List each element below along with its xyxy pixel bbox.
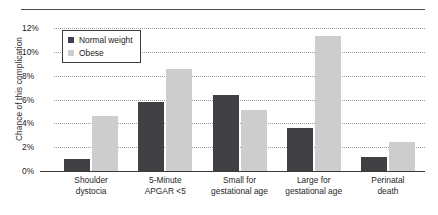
y-axis-tick-label: 12% (22, 23, 52, 33)
y-axis-tick-label: 2% (22, 142, 52, 152)
bar-obese (241, 110, 267, 171)
bar-normal-weight (138, 102, 164, 171)
gridline (54, 76, 425, 77)
legend-label-obese: Obese (79, 48, 104, 58)
category-label-line: Perinatal (343, 175, 433, 186)
x-axis-category-labels: Shoulderdystocia5-MinuteAPGAR <5Small fo… (54, 175, 425, 209)
top-divider-rule (21, 9, 425, 10)
legend-label-normal-weight: Normal weight (79, 35, 133, 45)
y-axis-tick-labels: 0%2%4%6%8%10%12% (22, 28, 52, 171)
bar-normal-weight (64, 159, 90, 171)
gridline (54, 28, 425, 29)
legend-item-obese: Obese (68, 48, 133, 58)
category-label: Perinataldeath (343, 175, 433, 196)
bar-obese (166, 69, 192, 171)
bar-normal-weight (287, 128, 313, 171)
y-axis-tick-label: 8% (22, 71, 52, 81)
bar-normal-weight (361, 157, 387, 171)
legend-swatch-obese-icon (68, 50, 74, 56)
category-label-line: death (343, 186, 433, 197)
bar-obese (315, 36, 341, 171)
bar-chart: Chance of this complication 0%2%4%6%8%10… (0, 0, 438, 215)
bar-normal-weight (213, 95, 239, 171)
legend-item-normal-weight: Normal weight (68, 35, 133, 45)
y-axis-tick-label: 10% (22, 47, 52, 57)
bar-obese (389, 142, 415, 171)
gridline (54, 100, 425, 101)
y-axis-tick-label: 4% (22, 118, 52, 128)
legend-swatch-normal-weight-icon (68, 37, 74, 43)
chart-legend: Normal weight Obese (62, 30, 141, 63)
bar-obese (92, 116, 118, 171)
x-axis-line (40, 171, 425, 172)
y-axis-tick-label: 6% (22, 95, 52, 105)
